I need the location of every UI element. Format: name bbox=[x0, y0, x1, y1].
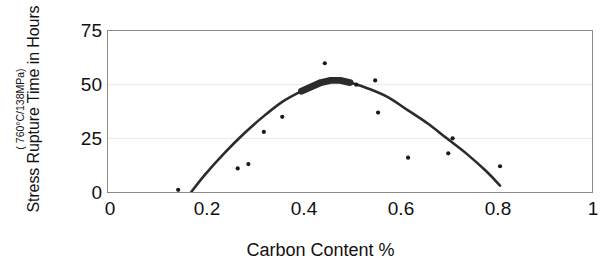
data-point bbox=[498, 164, 502, 168]
data-point bbox=[373, 78, 377, 82]
data-point bbox=[262, 130, 266, 134]
x-tick-label: 0.4 bbox=[291, 199, 317, 218]
y-axis-ticks: 75 50 25 0 bbox=[58, 0, 102, 276]
y-axis-label-subscript: ( 760°C/138MPa) bbox=[15, 68, 26, 149]
x-tick-label: 0.6 bbox=[388, 199, 414, 218]
y-tick-label: 25 bbox=[62, 129, 102, 148]
data-point bbox=[246, 162, 250, 166]
x-tick-label: 0 bbox=[105, 199, 116, 218]
x-tick-label: 0.8 bbox=[485, 199, 511, 218]
trend-crest-band bbox=[302, 80, 350, 91]
trend-curve bbox=[191, 80, 500, 192]
x-axis-label-text: Carbon Content % bbox=[246, 240, 394, 260]
data-point bbox=[236, 166, 240, 170]
data-point bbox=[446, 151, 450, 155]
x-axis-ticks: 0 0.2 0.4 0.6 0.8 1 bbox=[0, 199, 613, 227]
y-tick-label: 75 bbox=[62, 21, 102, 40]
data-point bbox=[376, 111, 380, 115]
x-tick-label: 1 bbox=[588, 199, 599, 218]
data-point bbox=[323, 61, 327, 65]
gridlines bbox=[108, 85, 592, 139]
y-axis-label-main: Stress Rupture Time in Hours bbox=[26, 5, 42, 212]
data-point bbox=[451, 136, 455, 140]
y-tick-label: 50 bbox=[62, 75, 102, 94]
data-point bbox=[406, 156, 410, 160]
plot-canvas bbox=[108, 31, 592, 192]
plot-area bbox=[107, 30, 593, 193]
data-point bbox=[354, 83, 358, 87]
data-point bbox=[280, 115, 284, 119]
y-axis-label: Stress Rupture Time in Hours ( 760°C/138… bbox=[0, 0, 56, 218]
x-tick-label: 0.2 bbox=[194, 199, 220, 218]
trend-line bbox=[191, 80, 500, 192]
x-axis-label: Carbon Content % bbox=[0, 240, 613, 261]
data-point bbox=[176, 188, 180, 192]
chart-figure: Stress Rupture Time in Hours ( 760°C/138… bbox=[0, 0, 613, 276]
